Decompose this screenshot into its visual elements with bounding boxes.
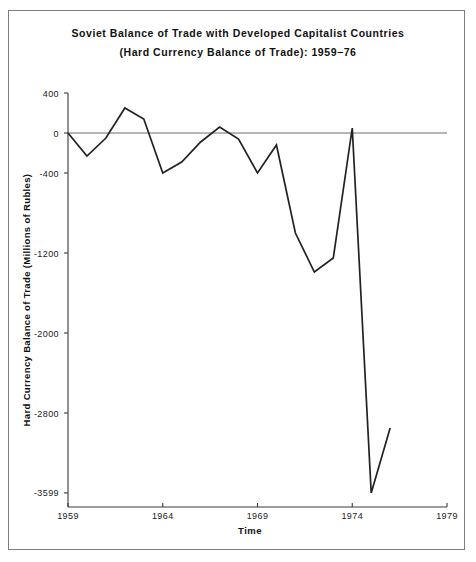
x-tick-label: 1959 [57, 511, 79, 521]
y-axis-label: Hard Currency Balance of Trade (Millions… [21, 174, 32, 427]
y-tick-label: -2800 [34, 409, 59, 419]
axes-group [68, 93, 447, 507]
y-tick-group: 4000-400-1200-2000-2800-3599 [34, 89, 68, 499]
y-tick-label: 0 [54, 129, 59, 139]
x-tick-label: 1964 [152, 511, 174, 521]
y-tick-label: -2000 [34, 329, 59, 339]
x-axis-label: Time [238, 525, 262, 536]
line-chart-plot: 4000-400-1200-2000-2800-3599 19591964196… [0, 0, 476, 562]
y-tick-label: -1200 [34, 249, 59, 259]
x-tick-group: 19591964196919741979 [57, 503, 458, 521]
x-tick-label: 1974 [341, 511, 363, 521]
x-tick-label: 1979 [436, 511, 458, 521]
data-series-line [68, 108, 390, 493]
y-tick-label: -400 [39, 169, 59, 179]
y-tick-label: 400 [43, 89, 59, 99]
x-tick-label: 1969 [247, 511, 269, 521]
y-tick-label: -3599 [34, 488, 59, 498]
